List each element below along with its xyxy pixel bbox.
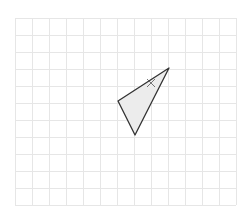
geometry-diagram: [0, 0, 252, 212]
triangle: [118, 68, 169, 135]
